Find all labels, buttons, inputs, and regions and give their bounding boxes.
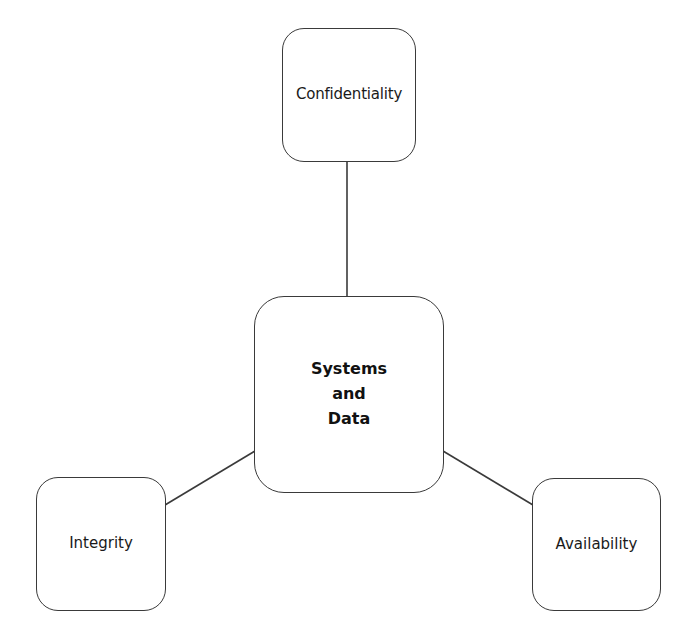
node-label: Integrity	[69, 534, 133, 554]
edge-center-availability	[443, 451, 533, 505]
edge-center-integrity	[165, 451, 255, 505]
center-label: Systems and Data	[311, 357, 387, 431]
node-label: Confidentiality	[296, 85, 402, 105]
node-integrity: Integrity	[36, 477, 166, 611]
node-label: Availability	[556, 535, 638, 555]
node-systems-and-data: Systems and Data	[254, 296, 444, 493]
node-confidentiality: Confidentiality	[282, 28, 416, 162]
node-availability: Availability	[532, 478, 661, 611]
